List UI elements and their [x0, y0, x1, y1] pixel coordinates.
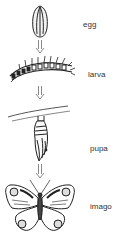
pupa-illustration: [8, 106, 70, 161]
imago-illustration: [6, 180, 75, 230]
egg-illustration: [33, 6, 48, 37]
stage-label-larva: larva: [88, 70, 105, 80]
stage-label-pupa: pupa: [90, 144, 108, 154]
arrow-down-icon: [36, 40, 44, 53]
larva-illustration: [10, 56, 75, 82]
stage-label-imago: imago: [90, 202, 112, 212]
life-cycle-diagram: egg larva pupa imago: [0, 0, 121, 239]
arrow-down-icon: [36, 86, 44, 99]
stage-label-egg: egg: [83, 20, 96, 30]
arrow-down-icon: [36, 164, 44, 178]
